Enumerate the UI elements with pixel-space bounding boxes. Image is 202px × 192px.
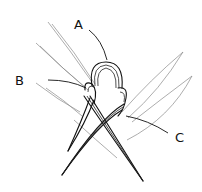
leader-line-c: [126, 116, 168, 133]
leader-line-a: [89, 30, 107, 60]
knot-diagram: A B C: [0, 0, 202, 192]
label-c: C: [175, 131, 184, 144]
label-a: A: [74, 18, 83, 31]
knot: [62, 62, 143, 181]
leader-line-b: [48, 80, 86, 88]
label-b: B: [15, 74, 24, 87]
knot-drawing: [0, 0, 202, 192]
